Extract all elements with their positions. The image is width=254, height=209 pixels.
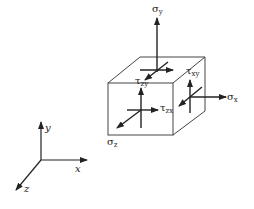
y-axis-label: y (45, 123, 51, 133)
right-face-stress (179, 80, 226, 113)
x-axis-label: x (75, 164, 81, 174)
z-axis-label: z (24, 184, 29, 194)
sigma-z-label: σz (107, 137, 118, 149)
diagram-canvas (0, 0, 254, 209)
front-face-stress (117, 88, 158, 128)
tau-zx-label: τzx (160, 103, 173, 115)
sigma-y-label: σy (152, 4, 163, 16)
stress-element-diagram: σy σx σz τxy τzx τzy y x z (0, 0, 254, 209)
coordinate-axes (16, 122, 87, 190)
top-face-stress (140, 18, 173, 80)
sigma-z-arrow (117, 110, 141, 128)
tau-zy-label: τzy (135, 76, 148, 88)
tau-xy-label: τxy (186, 66, 199, 78)
sigma-x-label: σx (227, 92, 238, 104)
